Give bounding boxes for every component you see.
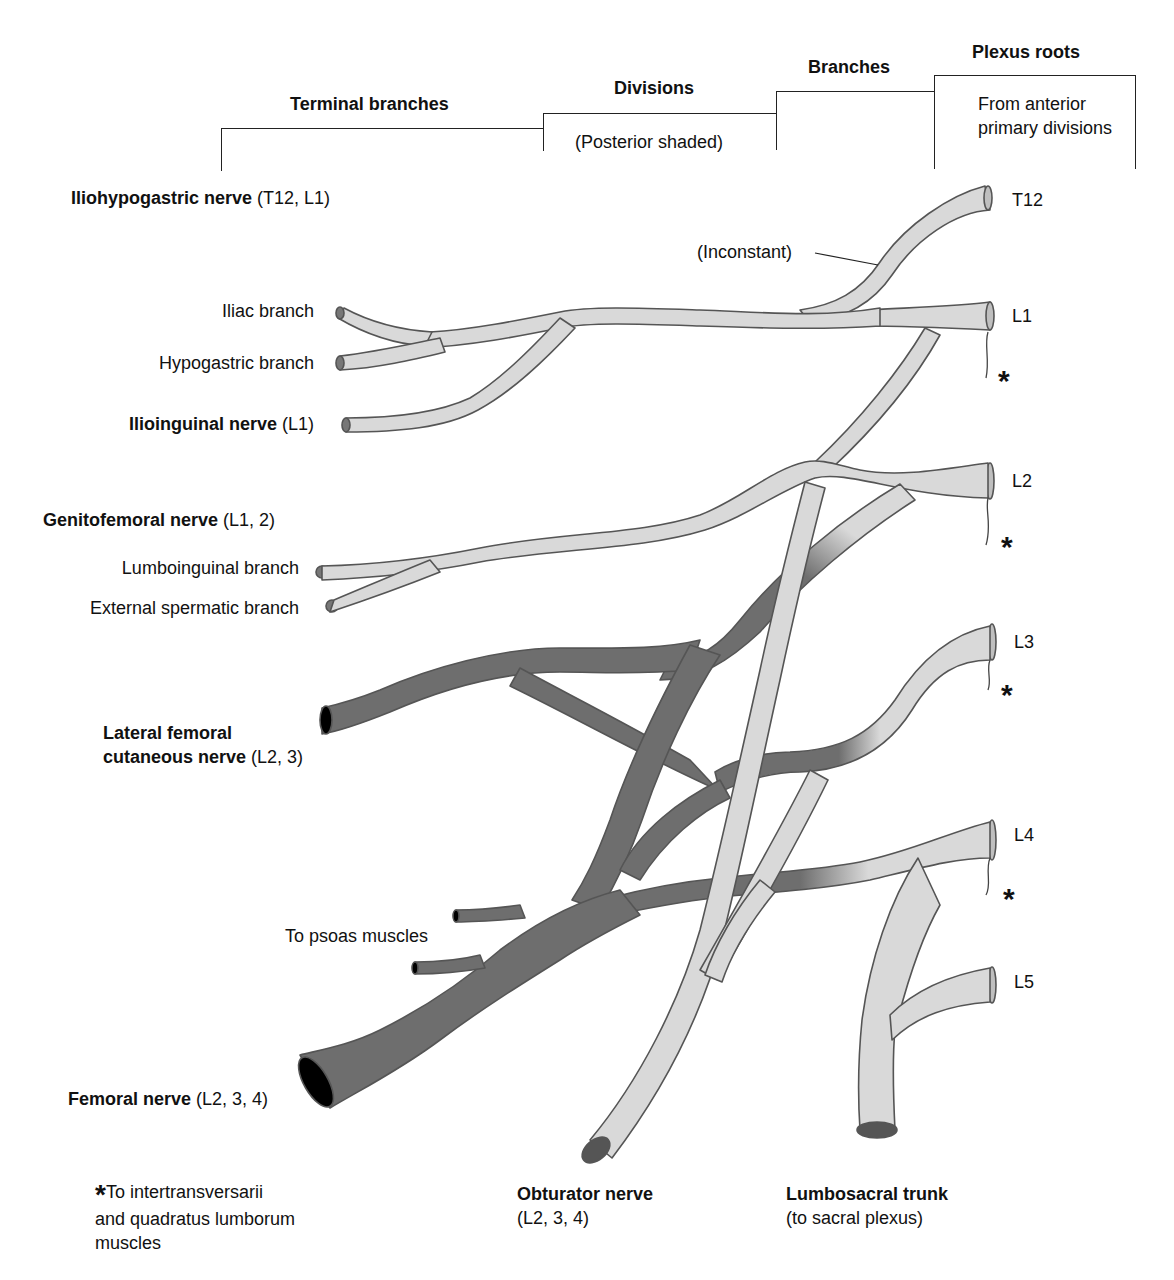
iliac-branch-end [336, 307, 344, 319]
hypogastric-branch-end [336, 356, 344, 370]
root-label-t12: T12 [1012, 190, 1043, 211]
iliohypogastric-segments: (T12, L1) [257, 188, 330, 208]
twig-l2 [986, 498, 989, 545]
footnote-asterisk: * [95, 1179, 106, 1210]
root-label-l5: L5 [1014, 972, 1034, 993]
footnote-line3: muscles [95, 1233, 161, 1253]
femoral-label: Femoral nerve (L2, 3, 4) [68, 1088, 268, 1110]
iliac-branch-label: Iliac branch [222, 300, 314, 322]
lfc-name-line1: Lateral femoral [103, 723, 232, 743]
ilioinguinal-segments: (L1) [282, 414, 314, 434]
root-label-l1: L1 [1012, 306, 1032, 327]
lumbosacral-trunk-name: Lumbosacral trunk [786, 1184, 948, 1204]
obturator-name: Obturator nerve [517, 1184, 653, 1204]
asterisk-l4: * [1003, 884, 1015, 914]
external-spermatic-branch-label: External spermatic branch [90, 597, 299, 619]
hypogastric-branch-label: Hypogastric branch [159, 352, 314, 374]
psoas-branch-1-end [453, 910, 459, 922]
root-label-l3: L3 [1014, 632, 1034, 653]
footnote: *To intertransversarii and quadratus lum… [95, 1180, 295, 1255]
iliohypogastric-label: Iliohypogastric nerve (T12, L1) [71, 187, 330, 209]
obturator-label: Obturator nerve (L2, 3, 4) [517, 1182, 653, 1230]
genitofemoral-nerve-shape [322, 461, 988, 612]
iliohypogastric-nerve-shape [338, 186, 990, 470]
lumbosacral-trunk-segments: (to sacral plexus) [786, 1208, 923, 1228]
asterisk-l1: * [998, 366, 1010, 396]
footnote-line1: To intertransversarii [106, 1182, 263, 1202]
ilioinguinal-label: Ilioinguinal nerve (L1) [129, 413, 314, 435]
lumbosacral-trunk-shape [859, 858, 990, 1130]
inconstant-label: (Inconstant) [697, 241, 792, 263]
femoral-name: Femoral nerve [68, 1089, 191, 1109]
twig-l3 [988, 660, 990, 690]
ilioinguinal-name: Ilioinguinal nerve [129, 414, 277, 434]
lfc-segments: (L2, 3) [251, 747, 303, 767]
obturator-segments: (L2, 3, 4) [517, 1208, 589, 1228]
lateral-femoral-cutaneous-cut-end [320, 706, 332, 734]
lumboinguinal-branch-label: Lumboinguinal branch [122, 557, 299, 579]
root-end-t12 [984, 186, 992, 210]
footnote-line2: and quadratus lumborum [95, 1209, 295, 1229]
lateral-femoral-cutaneous-label: Lateral femoral cutaneous nerve (L2, 3) [103, 721, 303, 769]
root-label-l2: L2 [1012, 471, 1032, 492]
root-label-l4: L4 [1014, 825, 1034, 846]
lumbosacral-trunk-label: Lumbosacral trunk (to sacral plexus) [786, 1182, 948, 1230]
lfc-name-line2: cutaneous nerve [103, 747, 246, 767]
lumbosacral-cut-end [857, 1122, 897, 1138]
lumbar-plexus-diagram: Terminal branches Divisions (Posterior s… [0, 0, 1174, 1280]
genitofemoral-label: Genitofemoral nerve (L1, 2) [43, 509, 275, 531]
twig-l1 [986, 332, 988, 378]
genitofemoral-name: Genitofemoral nerve [43, 510, 218, 530]
inconstant-leader-line [815, 253, 878, 265]
genitofemoral-segments: (L1, 2) [223, 510, 275, 530]
femoral-segments: (L2, 3, 4) [196, 1089, 268, 1109]
to-psoas-label: To psoas muscles [285, 925, 428, 947]
root-end-l1 [986, 302, 994, 330]
psoas-branch-2-end [412, 962, 418, 974]
iliohypogastric-name: Iliohypogastric nerve [71, 188, 252, 208]
ilioinguinal-end [342, 418, 350, 432]
asterisk-l2: * [1001, 532, 1013, 562]
twig-l4 [986, 858, 990, 895]
asterisk-l3: * [1001, 680, 1013, 710]
